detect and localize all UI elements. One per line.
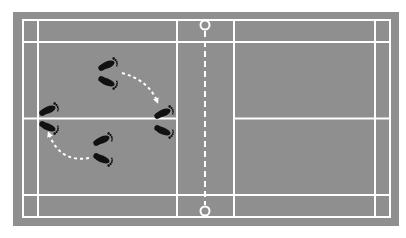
court-svg <box>0 0 406 238</box>
badminton-court-diagram: Badminton court footwork diagram <box>0 0 406 238</box>
net-post-bottom-icon <box>201 207 210 216</box>
net-post-top-icon <box>201 21 210 30</box>
